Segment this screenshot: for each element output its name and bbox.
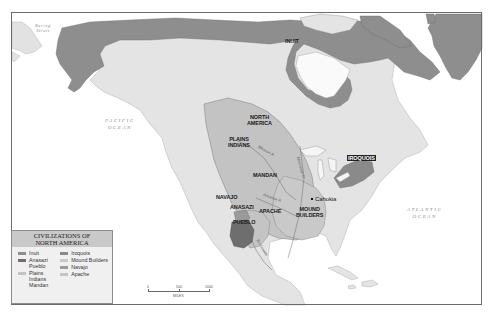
- bering-strait-label: Bering Strait: [35, 23, 51, 33]
- cahokia-label: Cahokia: [315, 196, 336, 202]
- anasazi-label: ANASAZI: [230, 204, 254, 210]
- bering-strait-text: Bering Strait: [35, 23, 51, 33]
- legend-item: Mound Builders: [60, 257, 108, 263]
- legend-column-right: IroquoisMound BuildersNavajoApache: [60, 250, 108, 289]
- scale-label-1000: 1000: [205, 285, 213, 289]
- legend-swatch-icon: [18, 252, 26, 255]
- greenland-islet: [426, 14, 436, 24]
- legend-swatch-icon: [60, 252, 68, 255]
- legend-swatch-icon: [18, 272, 26, 275]
- legend-swatch-icon: [60, 266, 68, 269]
- inuit-label: INUIT: [285, 38, 299, 44]
- pacific-ocean-line1: PACIFIC: [105, 117, 135, 124]
- atlantic-ocean-line2: OCEAN: [407, 213, 442, 220]
- mound-builders-label: MOUND BUILDERS: [296, 206, 323, 218]
- legend-swatch-icon: [60, 259, 68, 262]
- legend-item: Navajo: [60, 264, 108, 270]
- scale-tick-1000: [209, 289, 210, 292]
- mandan-label: MANDAN: [253, 172, 277, 178]
- mound-builders-line2: BUILDERS: [296, 212, 323, 218]
- atlantic-ocean-label: ATLANTIC OCEAN: [407, 206, 442, 220]
- legend-item: Inuit: [18, 250, 60, 256]
- legend-title-line1: CIVILIZATIONS OF: [12, 232, 112, 239]
- plains-indians-label: PLAINS INDIANS: [228, 136, 250, 148]
- legend-item: Apache: [60, 271, 108, 277]
- north-america-label: NORTH AMERICA: [247, 114, 272, 126]
- legend-item: Anasazi Pueblo: [18, 257, 60, 269]
- legend-label: Navajo: [71, 264, 88, 270]
- iroquois-label: IROQUOIS: [347, 155, 376, 161]
- legend-swatch-icon: [60, 273, 68, 276]
- scale-tick-500: [179, 289, 180, 292]
- legend-label: Inuit: [29, 250, 39, 256]
- pacific-ocean-label: PACIFIC OCEAN: [105, 117, 135, 131]
- legend-item: Iroquois: [60, 250, 108, 256]
- legend-item: Plains Indians Mandan: [18, 270, 60, 288]
- legend-title-line2: NORTH AMERICA: [12, 239, 112, 246]
- scale-unit-label: MILES: [173, 294, 184, 298]
- legend-label: Anasazi Pueblo: [29, 257, 48, 269]
- scale-bar: 0 500 1000 MILES: [145, 285, 215, 301]
- scale-tick-0: [148, 289, 149, 292]
- north-america-line2: AMERICA: [247, 120, 272, 126]
- map-legend: CIVILIZATIONS OF NORTH AMERICA InuitAnas…: [11, 230, 113, 304]
- legend-label: Mound Builders: [71, 257, 108, 263]
- legend-title: CIVILIZATIONS OF NORTH AMERICA: [12, 231, 112, 247]
- plains-indians-line2: INDIANS: [228, 142, 250, 148]
- scale-label-0: 0: [147, 285, 149, 289]
- legend-items: InuitAnasazi PuebloPlains Indians Mandan…: [12, 247, 112, 289]
- pacific-ocean-line2: OCEAN: [105, 124, 135, 131]
- atlantic-ocean-line1: ATLANTIC: [407, 206, 442, 213]
- legend-column-left: InuitAnasazi PuebloPlains Indians Mandan: [18, 250, 60, 289]
- navajo-label: NAVAJO: [216, 194, 238, 200]
- legend-label: Iroquois: [71, 250, 90, 256]
- legend-swatch-icon: [18, 259, 26, 262]
- legend-label: Plains Indians Mandan: [29, 270, 48, 288]
- pueblo-label: PUEBLO: [233, 219, 255, 225]
- scale-label-500: 500: [176, 285, 182, 289]
- apache-label: APACHE: [259, 208, 281, 214]
- cahokia-marker-icon: [311, 198, 313, 200]
- legend-label: Apache: [71, 271, 89, 277]
